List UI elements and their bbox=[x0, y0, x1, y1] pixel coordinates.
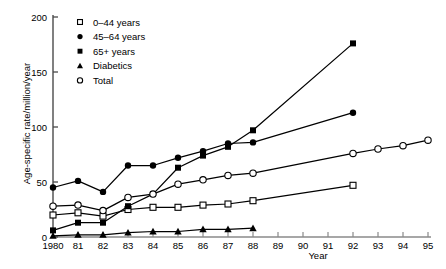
y-tick-label: 150 bbox=[31, 67, 47, 78]
data-point-open-circle bbox=[175, 181, 181, 187]
data-point-open-circle bbox=[400, 143, 406, 149]
data-point-open-circle bbox=[100, 207, 106, 213]
data-point-open-square bbox=[200, 202, 206, 208]
data-point-filled-triangle bbox=[77, 63, 83, 68]
legend-layer: 0–44 years45–64 years65+ yearsDiabeticsT… bbox=[77, 17, 146, 86]
legend-item: Diabetics bbox=[77, 60, 132, 71]
data-point-open-square bbox=[225, 201, 231, 207]
legend-label: 65+ years bbox=[93, 46, 135, 57]
data-point-filled-square bbox=[125, 203, 131, 209]
legend-label: 45–64 years bbox=[93, 31, 146, 42]
series-line bbox=[53, 140, 428, 210]
x-tick-label: 1980 bbox=[42, 240, 63, 251]
data-point-filled-square bbox=[75, 220, 81, 226]
legend-label: 0–44 years bbox=[93, 17, 140, 28]
data-point-filled-circle bbox=[250, 139, 256, 145]
x-tick-label: 82 bbox=[98, 240, 109, 251]
x-tick-label: 93 bbox=[373, 240, 384, 251]
data-point-open-square bbox=[250, 198, 256, 204]
data-point-open-circle bbox=[225, 172, 231, 178]
x-tick-label: 88 bbox=[248, 240, 259, 251]
data-point-open-circle bbox=[425, 137, 431, 143]
data-point-filled-square bbox=[78, 49, 83, 54]
data-point-filled-square bbox=[100, 220, 106, 226]
data-point-filled-circle bbox=[175, 155, 181, 161]
data-point-open-square bbox=[75, 210, 81, 216]
data-point-open-circle bbox=[125, 194, 131, 200]
x-tick-label: 90 bbox=[298, 240, 309, 251]
y-tick-label: 200 bbox=[31, 12, 47, 23]
x-tick-label: 91 bbox=[323, 240, 334, 251]
data-point-open-circle bbox=[50, 203, 56, 209]
legend-item: 65+ years bbox=[78, 46, 136, 57]
data-point-filled-square bbox=[350, 40, 356, 46]
data-point-open-circle bbox=[75, 202, 81, 208]
data-point-filled-circle bbox=[150, 162, 156, 168]
data-point-open-circle bbox=[250, 170, 256, 176]
data-point-filled-square bbox=[250, 127, 256, 133]
data-point-open-circle bbox=[200, 177, 206, 183]
legend-item: Total bbox=[77, 75, 113, 86]
x-tick-label: 86 bbox=[198, 240, 209, 251]
data-point-filled-circle bbox=[125, 162, 131, 168]
y-tick-label: 100 bbox=[31, 122, 47, 133]
data-point-filled-square bbox=[175, 165, 181, 171]
series-0-44-years bbox=[50, 182, 356, 219]
x-tick-label: 87 bbox=[223, 240, 234, 251]
data-point-open-circle bbox=[150, 191, 156, 197]
x-tick-label: 83 bbox=[123, 240, 134, 251]
legend-label: Total bbox=[93, 75, 113, 86]
data-point-filled-square bbox=[200, 153, 206, 159]
chart-plot-area: 0501001502001980818283848586878889909192… bbox=[0, 0, 446, 269]
legend-label: Diabetics bbox=[93, 60, 132, 71]
x-tick-label: 81 bbox=[73, 240, 84, 251]
data-point-open-square bbox=[175, 204, 181, 210]
x-tick-label: 84 bbox=[148, 240, 159, 251]
data-point-open-circle bbox=[375, 146, 381, 152]
legend-item: 45–64 years bbox=[77, 31, 145, 42]
data-point-filled-circle bbox=[77, 34, 82, 39]
x-tick-label: 89 bbox=[273, 240, 284, 251]
y-tick-label: 50 bbox=[36, 177, 47, 188]
data-point-open-square bbox=[350, 182, 356, 188]
data-point-open-square bbox=[50, 212, 56, 218]
data-point-open-circle bbox=[77, 78, 82, 83]
data-point-filled-circle bbox=[350, 110, 356, 116]
data-point-open-circle bbox=[350, 150, 356, 156]
x-tick-label: 94 bbox=[398, 240, 409, 251]
data-point-filled-circle bbox=[50, 184, 56, 190]
x-tick-label: 95 bbox=[423, 240, 434, 251]
data-point-open-square bbox=[150, 204, 156, 210]
data-point-filled-circle bbox=[75, 178, 81, 184]
chart-container: Age-specific rate/million/year Year 0501… bbox=[0, 0, 446, 269]
data-point-filled-circle bbox=[100, 189, 106, 195]
legend-item: 0–44 years bbox=[78, 17, 141, 28]
x-tick-label: 92 bbox=[348, 240, 359, 251]
x-tick-label: 85 bbox=[173, 240, 184, 251]
data-point-filled-square bbox=[225, 144, 231, 150]
data-point-open-square bbox=[78, 20, 83, 25]
